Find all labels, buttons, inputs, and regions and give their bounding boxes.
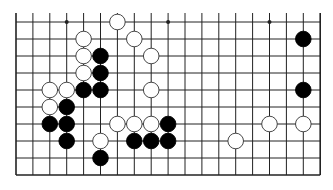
black-stone — [59, 133, 75, 149]
black-stone — [296, 31, 312, 47]
black-stone — [59, 99, 75, 115]
white-stone — [93, 133, 109, 149]
go-board[interactable] — [0, 0, 333, 190]
black-stone — [160, 133, 176, 149]
black-stone — [143, 133, 159, 149]
black-stone — [296, 82, 312, 98]
black-stone — [160, 116, 176, 132]
white-stone — [110, 14, 126, 30]
white-stone — [76, 65, 92, 81]
white-stone — [228, 133, 244, 149]
white-stone — [143, 116, 159, 132]
white-stone — [42, 82, 58, 98]
white-stone — [127, 31, 143, 47]
white-stone — [296, 116, 312, 132]
star-point — [65, 20, 69, 24]
white-stone — [143, 48, 159, 64]
black-stone — [93, 48, 109, 64]
black-stone — [42, 116, 58, 132]
white-stone — [76, 31, 92, 47]
white-stone — [110, 116, 126, 132]
white-stone — [262, 116, 278, 132]
star-point — [268, 20, 272, 24]
white-stone — [59, 82, 75, 98]
black-stone — [93, 65, 109, 81]
black-stone — [59, 116, 75, 132]
black-stone — [93, 150, 109, 166]
black-stone — [76, 82, 92, 98]
black-stone — [127, 133, 143, 149]
black-stone — [93, 82, 109, 98]
white-stone — [143, 82, 159, 98]
white-stone — [76, 48, 92, 64]
white-stone — [42, 99, 58, 115]
white-stone — [127, 116, 143, 132]
star-point — [166, 20, 170, 24]
